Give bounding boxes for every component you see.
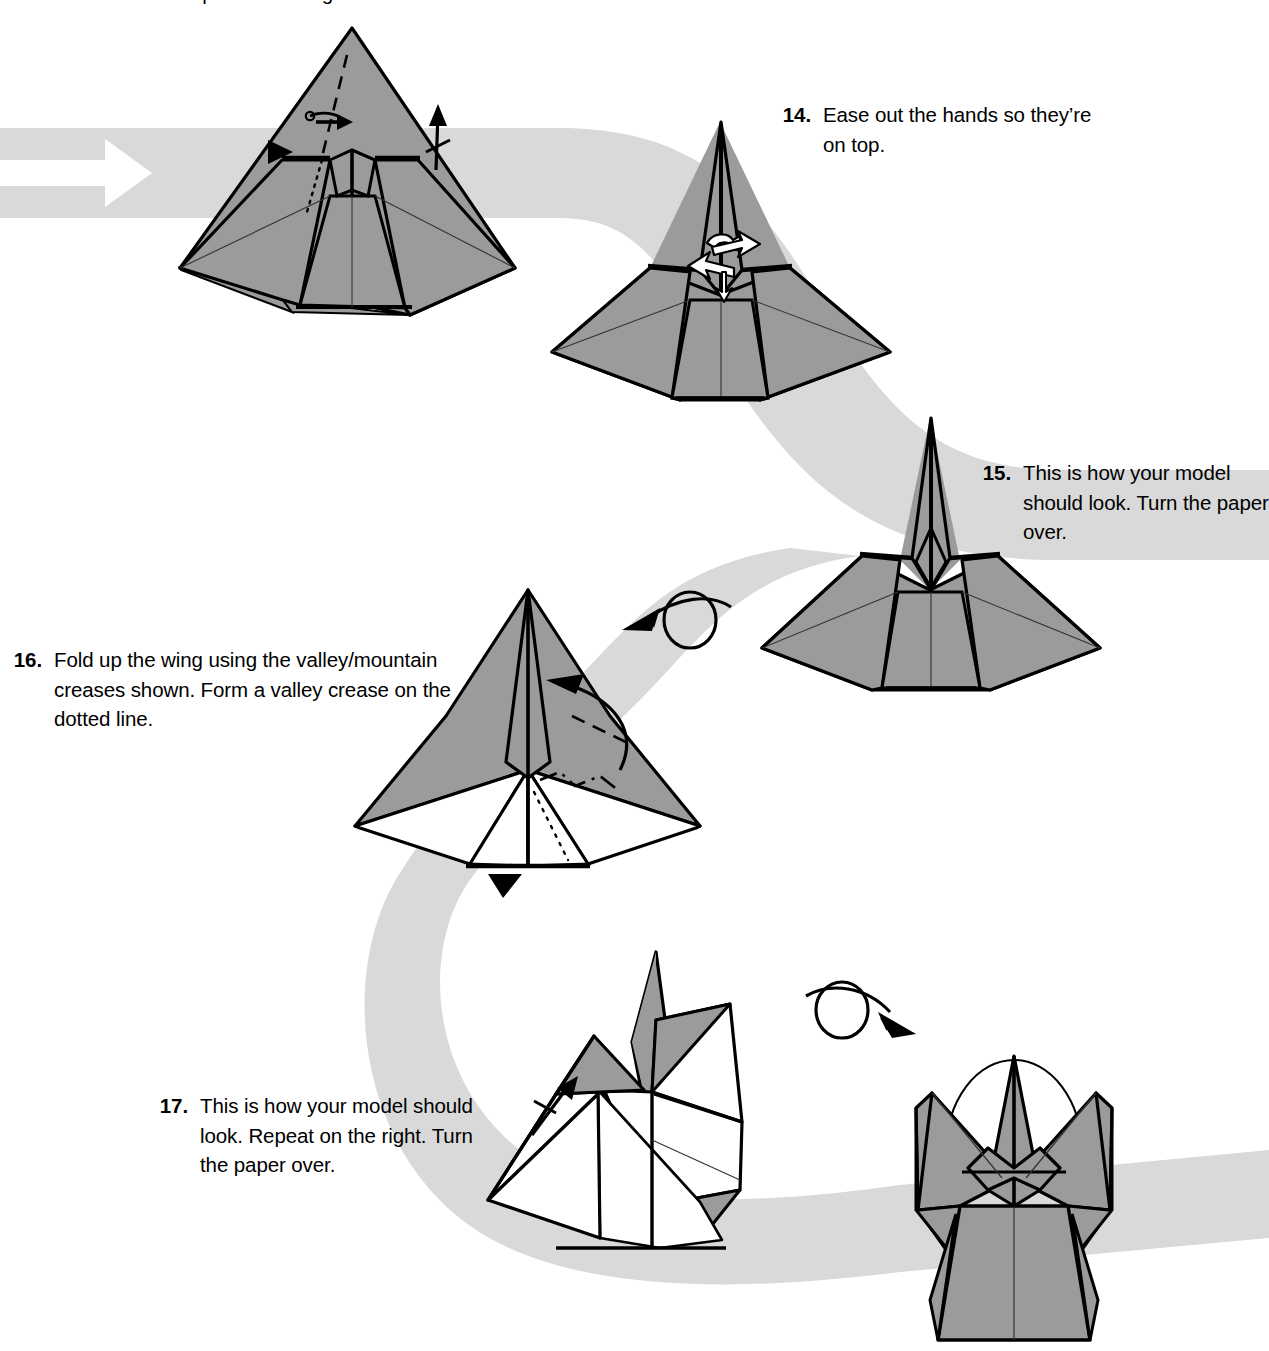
step-14-number: 14. [779,100,823,130]
step-16-caption: 16. Fold up the wing using the valley/mo… [8,645,468,734]
step-17-text: This is how your model should look. Repe… [200,1091,490,1180]
model-finished-angel [916,1056,1112,1340]
step-17-caption: 17. This is how your model should look. … [150,1091,490,1180]
truncated-caption-text: Repeat on the right. [176,0,356,4]
push-in-triangle [488,874,522,898]
step-16-number: 16. [8,645,54,675]
truncated-caption: Repeat on the right. [176,0,496,8]
model-step17 [488,952,742,1248]
instruction-page: Repeat on the right. 14. Ease out the ha… [0,0,1269,1351]
step-17-number: 17. [150,1091,200,1121]
step-16-text: Fold up the wing using the valley/mounta… [54,645,468,734]
turn-over-arrow-right [806,982,916,1038]
step-15-caption: 15. This is how your model should look. … [979,458,1269,547]
step-15-text: This is how your model should look. Turn… [1023,458,1269,547]
step-15-number: 15. [979,458,1023,488]
step-14-caption: 14. Ease out the hands so they’re on top… [779,100,1099,159]
step-14-text: Ease out the hands so they’re on top. [823,100,1099,159]
